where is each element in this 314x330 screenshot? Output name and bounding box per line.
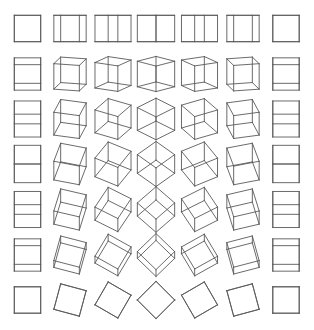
cube-edge xyxy=(137,98,156,107)
cube-edge xyxy=(204,121,217,132)
cube-edge xyxy=(227,236,253,243)
cube-edge xyxy=(61,122,87,125)
cube-cell xyxy=(54,143,86,185)
cube-cell xyxy=(181,187,217,231)
cube-rotation-grid xyxy=(0,0,314,330)
cube-edge xyxy=(108,99,131,106)
cube-edge xyxy=(252,243,259,268)
cube-edge xyxy=(156,130,175,139)
cube-edge xyxy=(227,162,253,167)
cube-edge xyxy=(227,243,253,250)
cube-edge xyxy=(252,236,259,261)
cube-edge xyxy=(61,143,87,148)
cube-edge xyxy=(195,177,218,186)
cube-edge xyxy=(181,105,194,116)
cube-cell xyxy=(181,142,217,186)
cube-edge xyxy=(181,295,194,318)
cube-cell xyxy=(227,236,259,274)
cube-edge xyxy=(108,241,131,254)
cube-edge xyxy=(79,243,86,268)
cube-edge xyxy=(95,142,108,158)
cube-edge xyxy=(54,99,61,112)
cube-edge xyxy=(79,167,86,185)
cube-edge xyxy=(54,143,61,161)
cube-cell xyxy=(181,282,217,318)
cube-cell xyxy=(14,58,40,90)
cube-edge xyxy=(156,61,175,66)
cube-edge xyxy=(252,83,259,90)
cube-edge xyxy=(234,224,260,230)
cube-edge xyxy=(95,121,108,132)
cube-edge xyxy=(181,128,194,139)
cube-edge xyxy=(137,200,156,216)
cube-edge xyxy=(156,98,175,107)
cube-edge xyxy=(156,200,175,216)
cube-edge xyxy=(137,141,156,154)
cube-edge xyxy=(54,189,61,211)
cube-edge xyxy=(79,103,86,116)
cube-edge xyxy=(181,241,204,254)
cube-edge xyxy=(227,284,253,291)
cube-edge xyxy=(156,281,175,300)
cube-edge xyxy=(156,203,175,219)
cube-cell xyxy=(273,58,299,90)
cube-edge xyxy=(156,121,175,130)
cube-cell xyxy=(227,143,259,185)
cube-edge xyxy=(252,162,259,180)
cube-cell xyxy=(273,287,299,313)
cube-cell xyxy=(95,234,131,276)
cube-edge xyxy=(252,189,259,211)
cube-edge xyxy=(137,281,156,300)
cube-edge xyxy=(54,89,80,91)
cube-edge xyxy=(118,105,131,116)
cube-edge xyxy=(95,282,108,305)
cube-edge xyxy=(227,143,253,148)
cube-edge xyxy=(156,87,175,92)
cube-edge xyxy=(118,170,131,186)
cube-cell xyxy=(137,141,174,186)
cube-edge xyxy=(79,84,86,91)
cube-edge xyxy=(54,180,80,185)
cube-edge xyxy=(181,82,204,85)
cube-edge xyxy=(54,122,61,135)
cube-edge xyxy=(137,300,156,319)
cube-cell xyxy=(54,284,86,316)
cube-edge xyxy=(61,57,87,59)
cube-edge xyxy=(137,56,156,61)
cube-edge xyxy=(227,57,253,59)
cube-cell xyxy=(181,234,217,276)
cube-edge xyxy=(108,200,131,211)
cube-edge xyxy=(195,133,218,140)
cube-edge xyxy=(118,254,131,276)
cube-cell xyxy=(95,187,131,231)
cube-cell xyxy=(54,189,86,230)
cube-edge xyxy=(227,189,253,195)
cube-edge xyxy=(108,234,131,247)
cube-edge xyxy=(137,82,156,87)
cube-edge xyxy=(195,110,218,117)
cube-edge xyxy=(79,195,86,217)
cube-edge xyxy=(234,161,260,166)
cube-edge xyxy=(61,99,87,102)
cube-cell xyxy=(54,236,86,274)
cube-edge xyxy=(118,128,131,139)
cube-edge xyxy=(95,63,118,66)
cube-cell xyxy=(14,287,40,313)
cube-edge xyxy=(61,243,87,250)
cube-cell xyxy=(227,284,259,316)
cube-edge xyxy=(181,282,204,295)
cube-edge xyxy=(118,86,131,92)
cube-cell xyxy=(181,57,217,92)
cube-edge xyxy=(227,202,253,208)
cube-edge xyxy=(95,110,118,117)
cube-cell xyxy=(227,99,259,138)
cube-edge xyxy=(227,195,234,217)
cube-edge xyxy=(156,173,175,186)
cube-cell xyxy=(227,189,259,230)
cube-edge xyxy=(234,89,260,91)
cube-edge xyxy=(137,173,156,186)
cube-edge xyxy=(156,216,175,232)
cube-edge xyxy=(204,57,217,63)
cube-edge xyxy=(195,263,218,276)
cube-edge xyxy=(137,87,156,92)
